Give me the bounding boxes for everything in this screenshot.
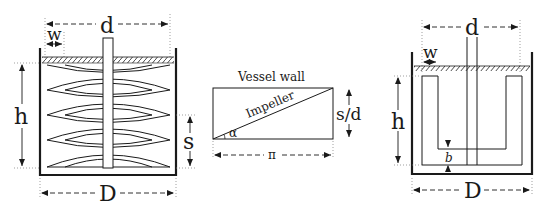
label-D: D xyxy=(99,181,117,206)
anchor-vessel: d w h b D xyxy=(391,15,532,203)
unrolled-helix-diagram: Vessel wall Impeller α s/d π xyxy=(213,70,361,162)
helical-ribbon-vessel: d w h xyxy=(14,13,196,206)
label-impeller: Impeller xyxy=(244,88,297,121)
label-s: s xyxy=(183,129,194,154)
label-s-over-d: s/d xyxy=(336,104,361,124)
label-h: h xyxy=(391,109,405,134)
impeller-shaft xyxy=(103,38,113,168)
label-w: w xyxy=(423,42,438,62)
label-pi: π xyxy=(268,148,276,162)
label-h: h xyxy=(14,104,28,129)
label-D: D xyxy=(464,178,482,203)
label-d: d xyxy=(100,13,114,38)
figure-canvas: d w h xyxy=(0,0,548,213)
label-w: w xyxy=(47,24,62,44)
label-b: b xyxy=(445,151,453,165)
label-d: d xyxy=(465,15,479,40)
anchor-impeller xyxy=(422,76,522,165)
label-alpha: α xyxy=(229,126,237,140)
angle-arc xyxy=(224,135,225,140)
label-vessel-wall: Vessel wall xyxy=(237,70,305,84)
liquid-surface-hatch xyxy=(414,66,530,71)
